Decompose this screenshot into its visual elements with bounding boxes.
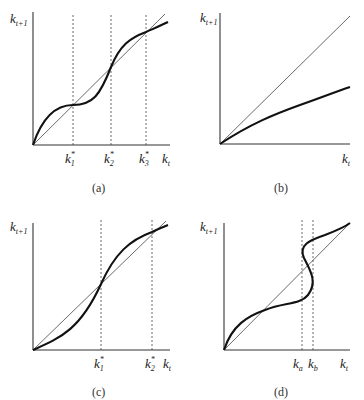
y-axis-label: kt+1	[10, 11, 27, 28]
panel-b: kt+1 kt (b)	[200, 10, 351, 195]
panel-c: kt+1 k*1 k*2 kt (c)	[10, 219, 172, 399]
45-degree-line	[33, 14, 165, 145]
45-degree-line	[220, 16, 350, 144]
marker-label-k2: k*2	[104, 150, 114, 168]
panel-caption: (c)	[92, 385, 105, 399]
panel-d: kt+1 ka kb kt (d)	[200, 218, 350, 399]
panel-caption: (d)	[274, 385, 288, 399]
transition-curve	[33, 22, 168, 145]
x-axis-label: kt	[162, 151, 171, 168]
panel-caption: (a)	[92, 181, 105, 195]
marker-label-k3: k*3	[139, 150, 149, 168]
marker-label-ka: ka	[293, 356, 303, 373]
x-axis-label: kt	[342, 151, 351, 168]
45-degree-line	[224, 223, 350, 350]
marker-label-k2: k*2	[145, 355, 155, 373]
y-axis-label: kt+1	[200, 219, 217, 236]
y-axis-label: kt+1	[200, 10, 217, 27]
y-axis-label: kt+1	[10, 219, 27, 236]
panel-a: kt+1 k*1 k*2 k*3 kt (a)	[10, 11, 171, 195]
transition-curve	[33, 225, 168, 350]
x-axis-label: kt	[163, 356, 172, 373]
marker-label-k1: k*1	[65, 150, 75, 168]
x-axis-label: kt	[340, 356, 349, 373]
marker-label-k1: k*1	[94, 355, 104, 373]
transition-curve	[220, 87, 350, 144]
marker-label-kb: kb	[308, 356, 318, 373]
figure: kt+1 k*1 k*2 k*3 kt (a) kt+1 kt (b) kt+1…	[0, 0, 364, 400]
panel-caption: (b)	[274, 181, 288, 195]
